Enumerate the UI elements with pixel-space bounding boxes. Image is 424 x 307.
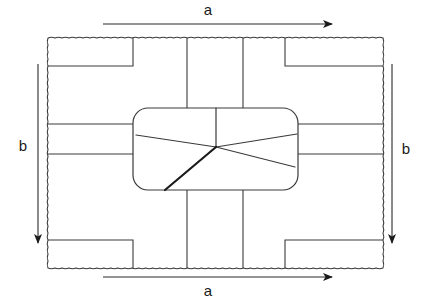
bottom-dimension-label: a	[204, 282, 213, 299]
top-right-block	[285, 38, 383, 66]
right-dimension-label: b	[402, 140, 410, 157]
diagram-canvas: a a b b	[0, 0, 424, 307]
technical-diagram: a a b b	[0, 0, 424, 307]
left-dimension-label: b	[19, 137, 27, 154]
top-dimension-label: a	[204, 1, 213, 18]
bottom-right-block	[285, 240, 383, 268]
bottom-left-block	[48, 240, 133, 268]
top-left-block	[48, 38, 133, 66]
